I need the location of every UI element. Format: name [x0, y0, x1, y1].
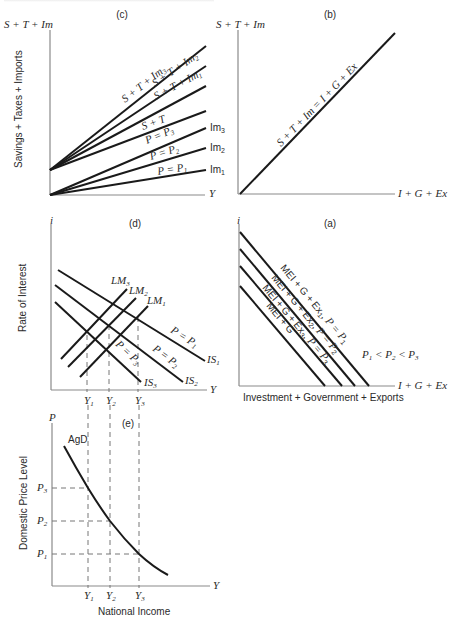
label-is3: IS3	[143, 376, 157, 390]
panel-b-x-title: I + G + Ex	[397, 187, 447, 199]
panel-c: (c) S + T + Im Savings + Taxes + Imports…	[4, 9, 225, 199]
label-is2: IS2	[184, 374, 198, 388]
panel-e-y-title: P	[48, 411, 56, 423]
label-lm1: LM1	[146, 294, 166, 308]
tick-y2-e: Y2	[106, 589, 116, 603]
panel-e-x-title: Y	[213, 579, 221, 591]
price-order-note: P1 < P2 < P3	[361, 348, 419, 362]
tick-y1-e: Y1	[84, 589, 94, 603]
label-is3-price: P = P3	[112, 337, 144, 368]
tick-p1: P1	[36, 547, 47, 561]
line-equilibrium	[240, 33, 395, 194]
panel-c-y-title: S + T + Im	[4, 18, 53, 30]
tick-p2: P2	[36, 514, 48, 528]
panel-b-label: (b)	[324, 9, 336, 20]
label-is1: IS1	[206, 353, 220, 367]
label-is2-price: P = P2	[149, 341, 182, 371]
tick-y1-d: Y1	[84, 394, 94, 408]
label-lm2: LM2	[128, 284, 148, 298]
panel-b-y-title: S + T + Im	[216, 18, 265, 30]
panel-c-y-label: Savings + Taxes + Imports	[13, 50, 24, 168]
end-label-im3: Im3	[210, 122, 225, 134]
tick-y3-e: Y3	[135, 589, 145, 603]
panel-d: (d) i Rate of Interest Y LM3 LM2 LM1 IS1…	[17, 214, 220, 408]
panel-a-x-title: I + G + Ex	[397, 379, 447, 391]
panel-a-x-label: Investment + Government + Exports	[243, 392, 404, 403]
tick-y2-d: Y2	[106, 394, 116, 408]
panel-d-x-title: Y	[210, 383, 218, 395]
panel-a-label: (a)	[324, 218, 336, 229]
panel-b: (b) S + T + Im I + G + Ex S + T + Im = I…	[216, 9, 447, 199]
end-label-im1: Im1	[210, 164, 225, 176]
panel-c-label: (c)	[116, 9, 128, 20]
panel-d-label: (d)	[129, 218, 141, 229]
panel-e-x-label: National Income	[98, 606, 171, 617]
line-im1	[50, 170, 206, 195]
panel-a: (a) i I + G + Ex Investment + Government…	[237, 214, 447, 403]
tick-y3-d: Y3	[135, 394, 145, 408]
end-label-im2: Im2	[210, 142, 225, 154]
panel-c-x-title: Y	[209, 187, 217, 199]
label-agd: AgD	[68, 434, 87, 445]
panel-e: (e) P Domestic Price Level Y National In…	[18, 405, 221, 617]
curve-agd	[64, 446, 168, 575]
panel-e-label: (e)	[122, 418, 134, 429]
panel-d-y-label: Rate of Interest	[17, 263, 28, 332]
panel-e-y-label: Domestic Price Level	[18, 456, 29, 550]
tick-p3: P3	[36, 481, 48, 495]
label-lm3: LM3	[110, 274, 130, 288]
macro-diagram: (c) S + T + Im Savings + Taxes + Imports…	[0, 0, 461, 622]
label-equilibrium: S + T + Im = I + G + Ex	[274, 60, 360, 148]
